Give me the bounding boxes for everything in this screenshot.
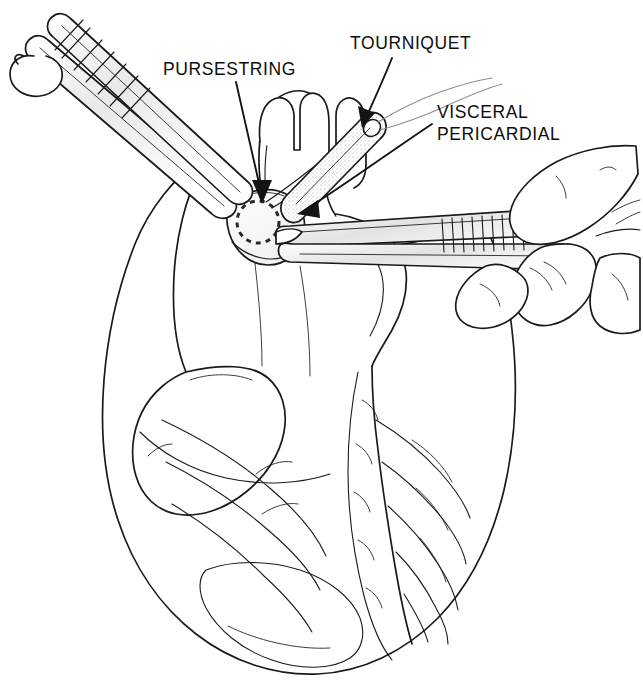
forceps-upper-left	[10, 14, 253, 219]
hand-palm-edge	[596, 229, 640, 236]
forceps-shank-upper	[48, 14, 253, 205]
hand-thumb	[590, 254, 640, 334]
surgical-illustration-figure: PURSESTRING TOURNIQUET VISCERAL PERICARD…	[0, 0, 643, 695]
forceps-ring-handle	[10, 56, 62, 97]
label-pericardial-text: PERICARDIAL	[437, 124, 560, 144]
label-tourniquet-text: TOURNIQUET	[350, 33, 471, 53]
label-tourniquet-leader	[366, 58, 392, 118]
label-visceral-text: VISCERAL	[437, 102, 528, 122]
illustration-canvas: PURSESTRING TOURNIQUET VISCERAL PERICARD…	[0, 0, 643, 695]
hand-web-lines	[616, 212, 640, 224]
label-pursestring-text: PURSESTRING	[163, 59, 296, 79]
